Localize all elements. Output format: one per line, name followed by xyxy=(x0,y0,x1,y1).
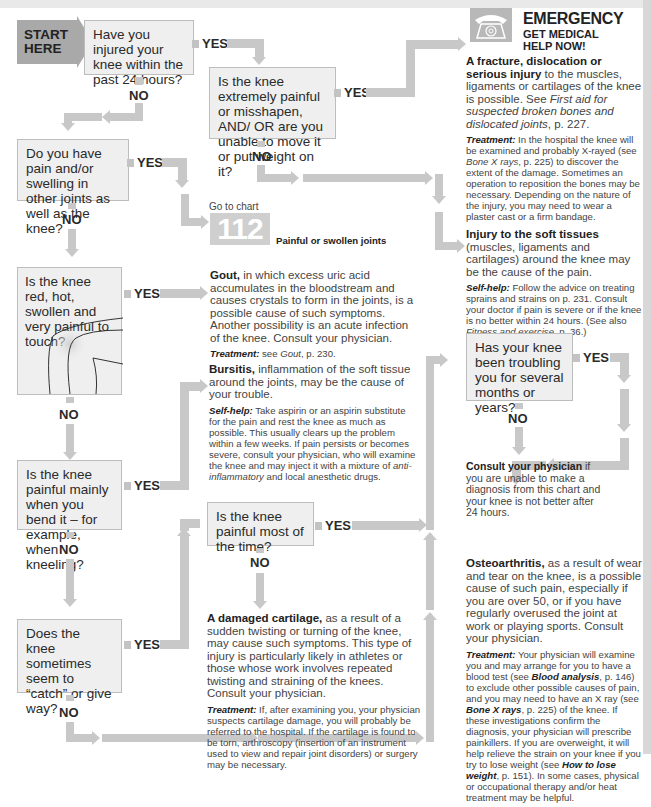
arrow-down-icon xyxy=(252,57,266,65)
yes-label: YES xyxy=(334,85,370,100)
flow-pipe xyxy=(426,538,434,610)
goto-chart-prefix: Go to chart xyxy=(209,201,258,212)
yes-label: YES xyxy=(127,155,163,170)
arrow-right-icon xyxy=(291,171,299,185)
arrow-right-icon xyxy=(92,731,100,745)
arrow-right-icon xyxy=(458,37,466,51)
arrow-right-icon xyxy=(200,379,208,393)
no-label: NO xyxy=(250,555,270,570)
arrow-down-icon xyxy=(63,599,77,607)
no-label: NO xyxy=(508,411,528,426)
arrow-down-icon xyxy=(63,452,77,460)
goto-chart-title[interactable]: Painful or swollen joints xyxy=(276,235,386,246)
bursitis-description: Bursitis, inflammation of the soft tissu… xyxy=(209,363,419,486)
flow-pipe xyxy=(68,203,76,209)
flow-pipe xyxy=(66,532,74,538)
emergency-description: A fracture, dislocation or serious injur… xyxy=(466,55,642,226)
flow-pipe xyxy=(66,559,74,599)
flow-pipe xyxy=(66,424,74,452)
no-label: NO xyxy=(59,542,79,557)
no-label: NO xyxy=(62,212,82,227)
flow-pipe xyxy=(257,141,265,147)
no-label: NO xyxy=(59,407,79,422)
gout-description: Gout, in which excess uric acid accumula… xyxy=(210,269,420,363)
flow-pipe xyxy=(256,548,264,553)
flow-pipe xyxy=(110,113,143,121)
consult-physician-note: Consult your physician if you are unable… xyxy=(466,461,606,523)
question-painful-most-time: Is the knee painful most of the time? xyxy=(207,502,314,546)
flow-pipe xyxy=(255,39,264,57)
flow-pipe xyxy=(352,521,419,530)
question-extremely-painful: Is the knee extremely painful or misshap… xyxy=(209,67,336,139)
soft-tissue-description: Injury to the soft tissues (muscles, lig… xyxy=(466,228,642,341)
no-label: NO xyxy=(59,705,79,720)
start-line1: START xyxy=(24,28,77,42)
question-injured-24h: Have you injured your knee within the pa… xyxy=(84,20,194,75)
question-other-joints: Do you have pain and/or swelling in othe… xyxy=(17,139,129,201)
arrow-up-icon xyxy=(423,532,437,540)
flow-pipe xyxy=(257,174,291,182)
flow-pipe xyxy=(135,77,143,85)
arrow-right-icon xyxy=(201,215,209,229)
arrow-up-icon xyxy=(423,612,437,620)
start-line2: HERE xyxy=(24,42,77,56)
flow-pipe xyxy=(66,397,74,403)
flow-pipe xyxy=(303,174,425,182)
flow-pipe xyxy=(160,289,200,298)
osteoarthritis-description: Osteoarthritis, as a result of wear and … xyxy=(466,557,642,807)
arrow-down-icon xyxy=(617,424,631,432)
arrow-right-icon xyxy=(457,239,465,253)
arrow-down-icon xyxy=(61,123,75,131)
arrow-down-icon xyxy=(253,601,267,609)
no-label: NO xyxy=(252,149,272,164)
arrow-down-icon xyxy=(432,196,446,204)
flow-pipe xyxy=(180,382,200,391)
flow-pipe xyxy=(620,389,629,424)
flow-pipe xyxy=(66,695,74,701)
question-catch-give-way: Does the knee sometimes seem to “catch” … xyxy=(17,619,122,693)
arrow-right-icon xyxy=(425,171,433,185)
emergency-title: EMERGENCY xyxy=(523,10,623,28)
flow-pipe xyxy=(620,353,629,375)
flow-pipe xyxy=(515,403,523,409)
flow-pipe xyxy=(515,427,523,447)
yes-label: YES xyxy=(124,637,160,652)
flow-pipe xyxy=(64,113,72,123)
emergency-subtitle: GET MEDICALHELP NOW! xyxy=(523,28,599,52)
flow-pipe xyxy=(66,734,92,742)
flow-pipe xyxy=(178,158,187,180)
arrow-down-icon xyxy=(617,375,631,383)
question-painful-bend: Is the knee painful mainly when you bend… xyxy=(17,460,122,530)
chart-112-link[interactable]: 112 xyxy=(210,213,270,245)
no-label: NO xyxy=(129,88,149,103)
flow-pipe xyxy=(426,728,434,742)
yes-label: YES xyxy=(124,286,160,301)
flow-pipe xyxy=(435,174,443,196)
flow-pipe xyxy=(426,360,434,530)
question-troubling-months: Has your knee been troubling you for sev… xyxy=(466,333,573,401)
arrow-up-icon xyxy=(177,528,191,536)
flow-pipe xyxy=(180,519,200,528)
knee-illustration xyxy=(18,316,123,396)
telephone-icon xyxy=(470,8,512,42)
yes-label: YES xyxy=(124,478,160,493)
yes-label: YES xyxy=(192,36,228,51)
cartilage-description: A damaged cartilage, as a result of a su… xyxy=(207,612,422,774)
flow-pipe xyxy=(256,573,264,601)
yes-label: YES xyxy=(573,350,609,365)
arrow-right-icon xyxy=(440,353,448,367)
top-banner xyxy=(0,0,643,8)
page-edge xyxy=(643,0,651,754)
start-here-marker: START HERE xyxy=(17,20,77,64)
arrow-down-icon xyxy=(65,249,79,257)
question-text: Does the knee sometimes seem to “catch” … xyxy=(26,626,112,716)
arrow-right-icon xyxy=(200,286,208,300)
flow-pipe xyxy=(180,536,189,649)
flow-pipe xyxy=(160,481,182,490)
flow-pipe xyxy=(160,640,182,649)
flow-pipe xyxy=(406,40,458,49)
arrow-down-icon xyxy=(512,447,526,455)
arrow-left-icon xyxy=(102,110,110,124)
flow-pipe xyxy=(180,382,189,490)
flow-pipe xyxy=(68,229,76,249)
